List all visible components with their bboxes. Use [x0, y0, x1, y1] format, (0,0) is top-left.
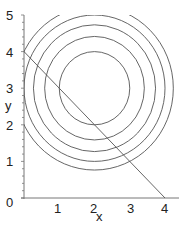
- contour-circle-5: [16, 6, 174, 170]
- line-x-plus-y-equals-4: [24, 52, 165, 198]
- x-tick-3: 3: [127, 201, 134, 216]
- contour-circle-3: [33, 25, 155, 152]
- contour-circle-1: [59, 52, 130, 125]
- y-tick-3: 3: [6, 81, 13, 96]
- y-axis-label: y: [5, 98, 12, 113]
- constraint-line: [24, 52, 165, 198]
- contour-circle-4: [24, 15, 165, 161]
- x-axis-label: x: [96, 209, 103, 224]
- y-tick-1: 1: [6, 154, 13, 169]
- contour-plot: 5 4 3 y 2 1 0 1 2 x 3 4: [0, 0, 188, 226]
- x-tick-1: 1: [54, 201, 61, 216]
- y-tick-4: 4: [6, 45, 13, 60]
- y-tick-5: 5: [6, 8, 13, 23]
- axes: [21, 15, 179, 199]
- origin-label: 0: [6, 195, 13, 210]
- y-tick-2: 2: [6, 118, 13, 133]
- x-tick-4: 4: [161, 201, 168, 216]
- contour-curves: [16, 6, 174, 170]
